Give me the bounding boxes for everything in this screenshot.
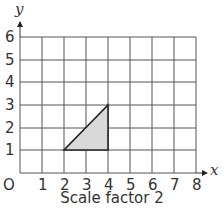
y-tick-4: 4: [5, 75, 15, 90]
caption: Scale factor 2: [0, 189, 224, 207]
y-axis-label: y: [15, 2, 23, 17]
y-tick-3: 3: [5, 98, 15, 113]
y-tick-5: 5: [5, 53, 15, 68]
x-axis-arrow-icon: [202, 170, 208, 176]
y-tick-6: 6: [5, 30, 15, 45]
x-axis-label: x: [210, 163, 218, 178]
y-axis-arrow-icon: [17, 21, 23, 27]
y-tick-2: 2: [5, 121, 15, 136]
y-tick-1: 1: [5, 143, 15, 158]
